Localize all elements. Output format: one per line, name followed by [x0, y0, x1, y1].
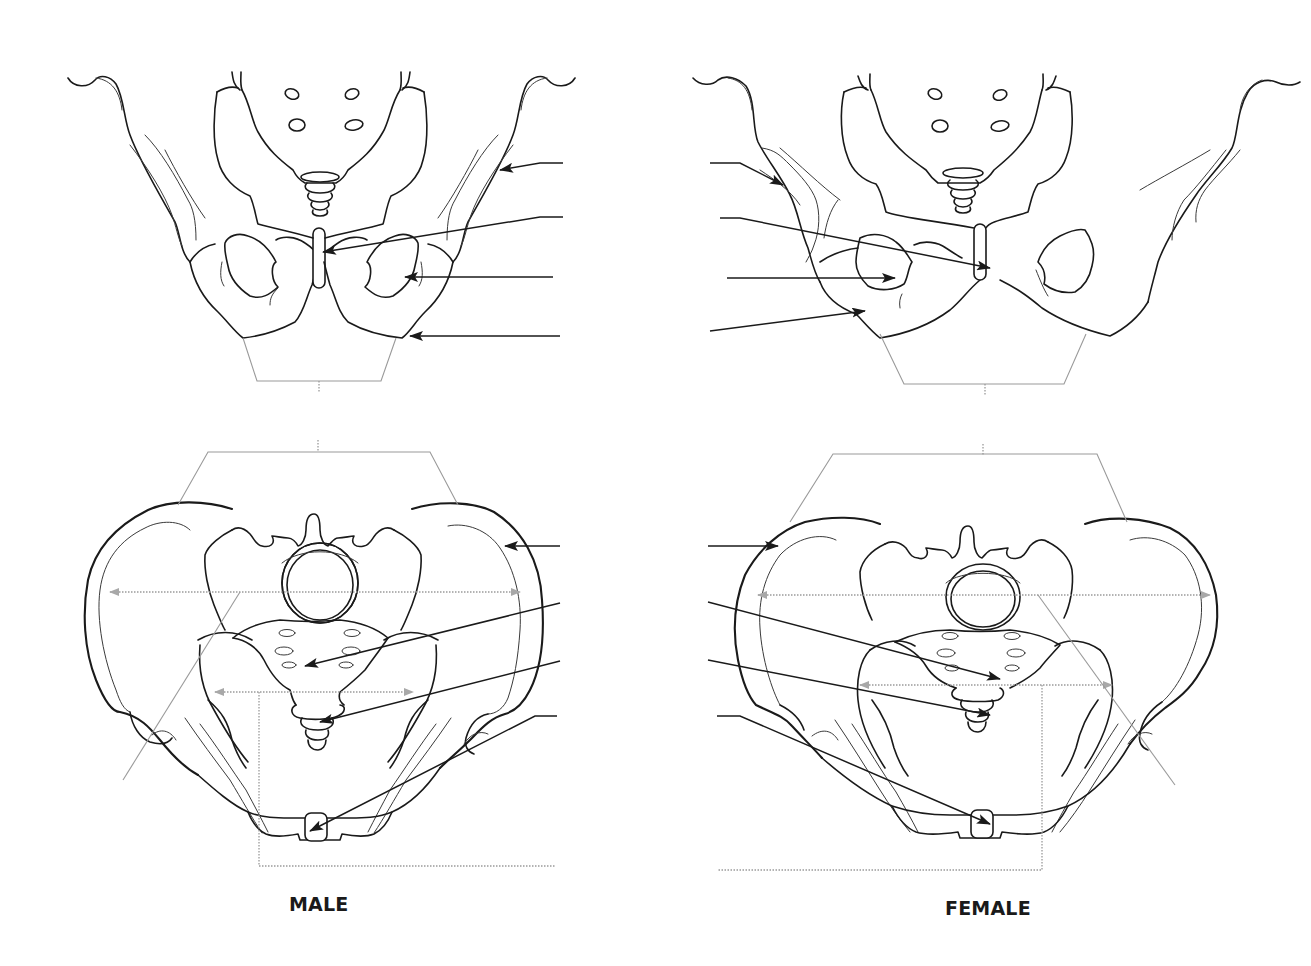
male-anterior-pelvis — [68, 72, 575, 338]
female-anterior-pelvis — [693, 74, 1300, 338]
male-superior-bracket — [178, 452, 458, 505]
male-superior-pelvis — [85, 502, 543, 841]
pelvis-comparison-diagram — [0, 0, 1311, 966]
male-anterior-callouts — [323, 163, 563, 336]
male-caption: MALE — [289, 893, 349, 915]
callout-leader-line — [720, 218, 990, 268]
female-superior-bracket — [790, 454, 1127, 522]
female-anterior-bracket — [880, 334, 1086, 384]
callout-leader-line — [310, 716, 557, 831]
callout-leader-line — [717, 716, 990, 824]
callout-leader-line — [708, 660, 990, 715]
callout-leader-line — [305, 603, 560, 666]
female-anterior-callouts — [710, 163, 990, 331]
female-superior-pelvis — [735, 518, 1217, 838]
callout-leader-line — [710, 311, 865, 331]
callout-leader-line — [323, 217, 563, 252]
male-anterior-bracket — [243, 338, 396, 381]
female-caption: FEMALE — [945, 897, 1031, 919]
callout-leader-line — [500, 163, 563, 170]
